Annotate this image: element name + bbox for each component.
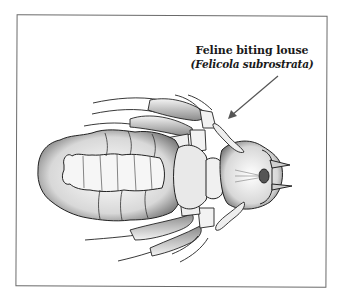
pointer-arrow <box>228 76 278 119</box>
thorax <box>174 145 224 209</box>
abdomen <box>38 130 184 221</box>
head <box>220 141 292 209</box>
louse-illustration <box>0 0 346 299</box>
